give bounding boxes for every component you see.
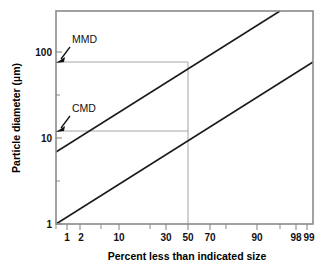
cmd-annotation-label: CMD bbox=[72, 102, 96, 114]
mmd-annotation-label: MMD bbox=[72, 33, 97, 45]
x-tick-label-1: 1 bbox=[64, 232, 70, 243]
x-tick-label-90: 90 bbox=[251, 232, 263, 243]
chart-canvas: 100 10 1 1 2 10 30 50 70 90 98 99 MMD CM… bbox=[0, 0, 329, 273]
x-tick-label-30: 30 bbox=[160, 232, 172, 243]
x-tick-label-70: 70 bbox=[204, 232, 216, 243]
x-axis-title: Percent less than indicated size bbox=[108, 250, 267, 262]
x-tick-label-2: 2 bbox=[78, 232, 84, 243]
x-tick-label-99: 99 bbox=[303, 232, 315, 243]
y-tick-label-1: 1 bbox=[46, 219, 52, 230]
y-tick-label-100: 100 bbox=[35, 47, 52, 58]
x-tick-label-98: 98 bbox=[290, 232, 302, 243]
particle-size-distribution-figure: 100 10 1 1 2 10 30 50 70 90 98 99 MMD CM… bbox=[0, 0, 329, 273]
x-tick-label-50: 50 bbox=[182, 232, 194, 243]
x-tick-label-10: 10 bbox=[113, 232, 125, 243]
y-tick-label-10: 10 bbox=[41, 133, 53, 144]
y-axis-title: Particle diameter (µm) bbox=[10, 63, 22, 173]
